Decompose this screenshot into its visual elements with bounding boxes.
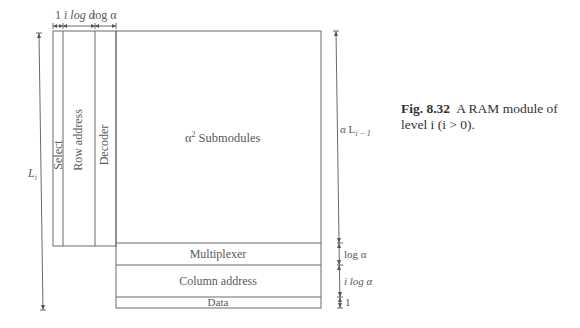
data-label: Data: [208, 296, 229, 308]
main-block-frame: [116, 31, 321, 308]
figure-number: Fig. 8.32: [401, 101, 450, 116]
ram-module-diagram: 1 i log α log α Select Row address Decod…: [0, 0, 580, 328]
caption-line1: A RAM module of: [456, 101, 558, 116]
multiplexer-height-label: log α: [344, 248, 367, 260]
submodules-height-label: α Li − 1: [340, 123, 371, 138]
caption-line2: level i (i > 0).: [401, 117, 475, 132]
submodules-label: α2Submodules: [185, 130, 261, 145]
left-dimension-line: [39, 33, 43, 310]
row-address-label: Row address: [71, 109, 85, 171]
figure-caption: Fig. 8.32 A RAM module of level i (i > 0…: [401, 101, 571, 133]
decoder-width-label: log α: [92, 8, 117, 22]
select-label: Select: [51, 140, 65, 170]
select-width-label: 1: [55, 8, 61, 22]
decoder-label: Decoder: [97, 125, 111, 166]
column-address-height-label: i log α: [344, 275, 373, 287]
multiplexer-label: Multiplexer: [190, 247, 247, 261]
column-address-label: Column address: [179, 274, 257, 288]
data-height-label: 1: [345, 296, 351, 308]
row-address-width-label: i log α: [64, 8, 96, 22]
total-height-label: Li: [27, 166, 37, 182]
